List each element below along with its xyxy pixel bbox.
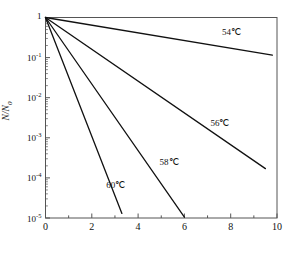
series-line-56c [46, 18, 266, 169]
y-axis-title-text: N/N0 [2, 86, 14, 136]
series-label-54c: 54℃ [222, 28, 241, 37]
semilog-decay-chart: 110-110-210-310-410-5 0246810 54℃56℃58℃6… [0, 0, 295, 253]
x-tick-label-3: 6 [172, 222, 196, 232]
axis-ticks [46, 18, 278, 219]
y-tick-label-2: 10-2 [12, 92, 42, 103]
y-axis-title: N/N0 [2, 86, 16, 136]
x-tick-label-2: 4 [126, 222, 150, 232]
x-tick-label-4: 8 [219, 222, 243, 232]
series-label-60c: 60℃ [106, 181, 125, 190]
axis-frame [46, 18, 278, 219]
data-series-lines [46, 18, 273, 218]
x-tick-label-0: 0 [34, 222, 58, 232]
series-label-56c: 56℃ [210, 119, 229, 128]
plot-canvas [0, 0, 295, 253]
y-tick-label-4: 10-4 [12, 172, 42, 183]
x-tick-label-5: 10 [265, 222, 289, 232]
y-tick-label-3: 10-3 [12, 132, 42, 143]
x-tick-label-1: 2 [80, 222, 104, 232]
series-label-58c: 58℃ [160, 158, 179, 167]
y-tick-label-0: 1 [12, 12, 42, 21]
y-tick-label-1: 10-1 [12, 52, 42, 63]
